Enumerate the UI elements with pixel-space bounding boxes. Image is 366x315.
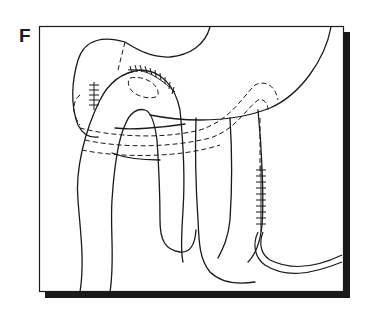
- frame-border: [40, 27, 344, 292]
- surgical-diagram: [0, 0, 366, 315]
